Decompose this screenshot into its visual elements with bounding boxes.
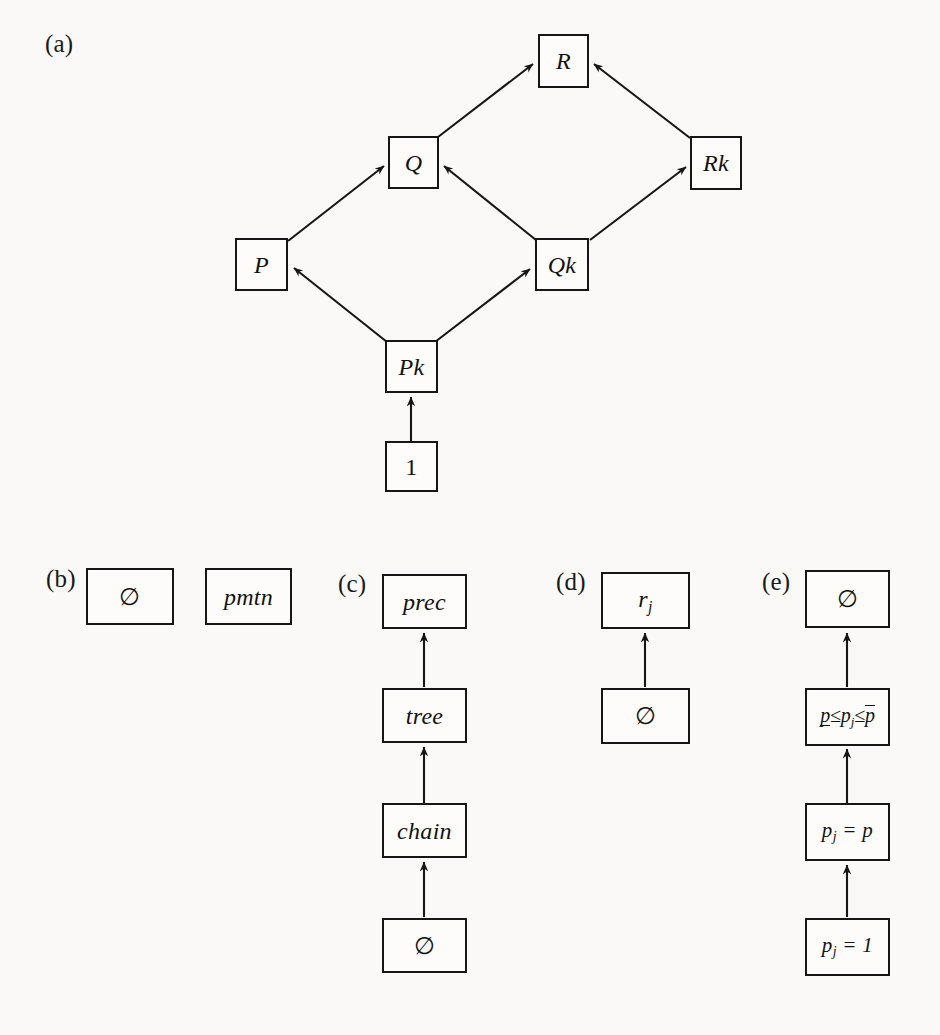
node-e-pj-eq-p-rest: = p bbox=[842, 818, 873, 842]
node-b-pmtn-label: pmtn bbox=[224, 585, 273, 609]
node-e-pj-eq-p-label: pj = p bbox=[822, 820, 873, 844]
node-d-rj-base: r bbox=[638, 586, 648, 612]
edge-pk-to-p bbox=[294, 268, 387, 342]
panel-label-c: (c) bbox=[338, 571, 366, 596]
node-d-empty-label: ∅ bbox=[635, 704, 656, 728]
node-c-prec-label: prec bbox=[403, 590, 446, 614]
node-b-empty[interactable]: ∅ bbox=[86, 568, 174, 625]
node-e-bounds-le-2: ≤ bbox=[854, 704, 865, 726]
panel-label-d: (d) bbox=[556, 569, 586, 594]
edge-q-to-r bbox=[438, 64, 533, 137]
node-c-chain-label: chain bbox=[397, 819, 452, 843]
node-c-tree[interactable]: tree bbox=[382, 688, 467, 743]
node-Rk-label: Rk bbox=[703, 151, 729, 175]
node-c-empty-label: ∅ bbox=[414, 934, 435, 958]
node-b-pmtn[interactable]: pmtn bbox=[205, 568, 292, 625]
node-e-bounds-p-upper: p bbox=[865, 705, 875, 725]
node-P-label: P bbox=[254, 253, 269, 277]
node-Q[interactable]: Q bbox=[388, 136, 439, 189]
panel-label-a: (a) bbox=[45, 31, 73, 56]
node-e-pj-eq-1-label: pj = 1 bbox=[822, 935, 873, 959]
edge-p-to-q bbox=[288, 166, 384, 241]
panel-label-e: (e) bbox=[762, 569, 790, 594]
node-c-empty[interactable]: ∅ bbox=[382, 918, 467, 973]
edge-rk-to-r bbox=[594, 64, 690, 138]
node-e-bounds-p-mid: p bbox=[841, 704, 851, 726]
node-e-bounds-p-lower: p bbox=[820, 706, 830, 726]
node-d-rj-subscript: j bbox=[648, 598, 653, 615]
node-one[interactable]: 1 bbox=[385, 441, 438, 492]
node-e-bounds-le-1: ≤ bbox=[830, 704, 841, 726]
arrow-layer bbox=[0, 0, 940, 1035]
node-d-rj-label: rj bbox=[638, 587, 652, 615]
node-Pk-label: Pk bbox=[399, 355, 425, 379]
figure-canvas: (a) R Q Rk P Qk Pk 1 (b) ∅ pmtn (c) prec… bbox=[0, 0, 940, 1035]
node-c-chain[interactable]: chain bbox=[382, 803, 467, 858]
node-d-rj[interactable]: rj bbox=[601, 572, 690, 629]
node-R[interactable]: R bbox=[538, 34, 589, 88]
node-e-pj-eq-p-base: p bbox=[822, 818, 833, 842]
node-e-pj-eq-p[interactable]: pj = p bbox=[805, 803, 890, 861]
node-e-bounds[interactable]: p≤pj≤p bbox=[805, 688, 890, 746]
node-Qk[interactable]: Qk bbox=[535, 238, 589, 291]
node-e-pj-eq-1-rest: = 1 bbox=[842, 933, 873, 957]
node-b-empty-label: ∅ bbox=[119, 585, 140, 609]
node-Qk-label: Qk bbox=[548, 253, 577, 277]
node-c-prec[interactable]: prec bbox=[382, 574, 467, 629]
node-c-tree-label: tree bbox=[406, 704, 444, 728]
node-P[interactable]: P bbox=[235, 238, 288, 291]
node-Pk[interactable]: Pk bbox=[385, 340, 438, 393]
edge-qk-to-q bbox=[444, 166, 536, 240]
edge-qk-to-rk bbox=[590, 167, 686, 240]
node-d-empty[interactable]: ∅ bbox=[601, 688, 690, 744]
node-e-bounds-label: p≤pj≤p bbox=[820, 705, 874, 728]
node-e-pj-eq-1-subscript: j bbox=[833, 944, 837, 959]
node-e-pj-eq-1[interactable]: pj = 1 bbox=[805, 918, 890, 976]
node-one-label: 1 bbox=[405, 455, 417, 479]
edge-pk-to-qk bbox=[435, 269, 530, 342]
node-e-pj-eq-p-subscript: j bbox=[833, 829, 837, 844]
node-Rk[interactable]: Rk bbox=[690, 136, 742, 190]
node-e-empty-label: ∅ bbox=[837, 587, 858, 611]
node-R-label: R bbox=[556, 49, 571, 73]
node-e-pj-eq-1-base: p bbox=[822, 933, 833, 957]
panel-label-b: (b) bbox=[46, 566, 76, 591]
node-e-empty[interactable]: ∅ bbox=[805, 570, 890, 628]
node-Q-label: Q bbox=[405, 151, 423, 175]
